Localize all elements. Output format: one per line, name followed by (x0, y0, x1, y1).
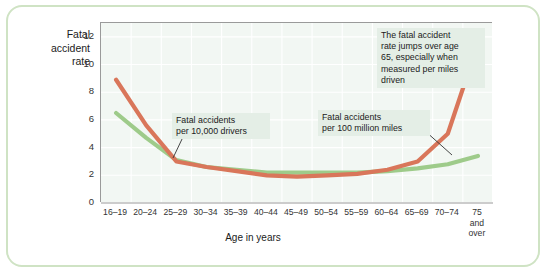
annotation-jump-line-4: measured per miles (381, 64, 481, 75)
annotation-per-100-million-miles: Fatal accidents per 100 million miles (318, 110, 430, 136)
annotation-miles-line-2: per 100 million miles (322, 123, 426, 134)
x-axis-tick-label-line: 75 (458, 207, 496, 218)
annotation-jump-line-1: The fatal accident (381, 30, 481, 41)
annotation-rate-jump-callout: The fatal accident rate jumps over age 6… (377, 28, 485, 88)
y-axis-tick-6: 6 (68, 113, 94, 124)
y-axis-tick-8: 8 (68, 85, 94, 96)
y-axis-tick-10: 10 (68, 58, 94, 69)
annotation-jump-line-2: rate jumps over age (381, 41, 481, 52)
annotation-per-10000-drivers: Fatal accidents per 10,000 drivers (172, 113, 270, 139)
y-axis-tick-4: 4 (68, 141, 94, 152)
y-axis-tick-2: 2 (68, 168, 94, 179)
y-axis-tick-12: 12 (68, 30, 94, 41)
y-axis-title-line-2: accident (28, 42, 90, 56)
annotation-drivers-line-1: Fatal accidents (176, 115, 266, 126)
chart-figure: Fatal accident rate 024681012 16–1920–24… (0, 0, 546, 273)
x-axis-tick-label-line: and (458, 218, 496, 229)
y-axis-tick-0: 0 (68, 196, 94, 207)
annotation-miles-line-1: Fatal accidents (322, 112, 426, 123)
x-axis-title: Age in years (0, 232, 546, 243)
annotation-jump-line-3: 65, especially when (381, 52, 481, 63)
annotation-jump-line-5: driven (381, 75, 481, 86)
annotation-drivers-line-2: per 10,000 drivers (176, 126, 266, 137)
